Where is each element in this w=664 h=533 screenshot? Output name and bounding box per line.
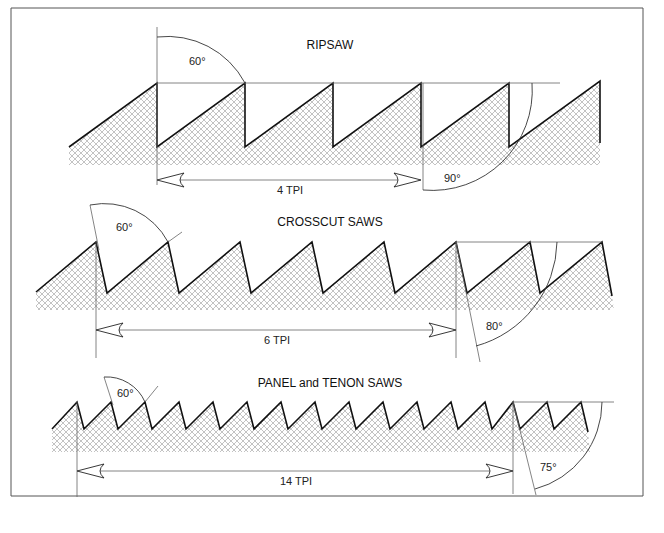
panel-tenon-arrow-left xyxy=(77,464,104,478)
panel-tenon-60-tick xyxy=(145,386,158,402)
ripsaw-title: RIPSAW xyxy=(307,38,355,52)
panel-tenon-face-angle: 75° xyxy=(540,461,557,473)
panel-tenon-diagram: PANEL and TENON SAWS 60° 75° 14 TPI xyxy=(52,376,614,497)
panel-tenon-rake-angle: 60° xyxy=(117,387,134,399)
crosscut-60-tick xyxy=(168,232,182,242)
panel-tenon-title: PANEL and TENON SAWS xyxy=(258,376,403,390)
panel-tenon-tpi: 14 TPI xyxy=(280,475,312,487)
ripsaw-arrow-right xyxy=(394,173,421,187)
ripsaw-face-angle: 90° xyxy=(444,172,461,184)
ripsaw-rake-angle: 60° xyxy=(189,55,206,67)
crosscut-rake-angle: 60° xyxy=(116,221,133,233)
crosscut-blade-body xyxy=(36,242,614,310)
crosscut-tpi: 6 TPI xyxy=(264,334,290,346)
crosscut-diagram: CROSSCUT SAWS 60° 80° 6 TPI xyxy=(36,204,614,362)
crosscut-arrow-left xyxy=(96,323,123,337)
crosscut-face-angle: 80° xyxy=(486,320,503,332)
panel-tenon-rake-ref xyxy=(104,377,113,405)
crosscut-arrow-right xyxy=(429,323,456,337)
ripsaw-arrow-left xyxy=(157,173,184,187)
ripsaw-diagram: RIPSAW 60° 90° 4 TPI xyxy=(69,27,600,196)
crosscut-title: CROSSCUT SAWS xyxy=(277,215,382,229)
saw-tooth-diagram: RIPSAW 60° 90° 4 TPI CROSSCUT SAWS 60 xyxy=(0,0,664,533)
panel-tenon-arrow-right xyxy=(486,464,513,478)
ripsaw-tpi: 4 TPI xyxy=(277,184,303,196)
ripsaw-blade-body xyxy=(69,81,600,165)
